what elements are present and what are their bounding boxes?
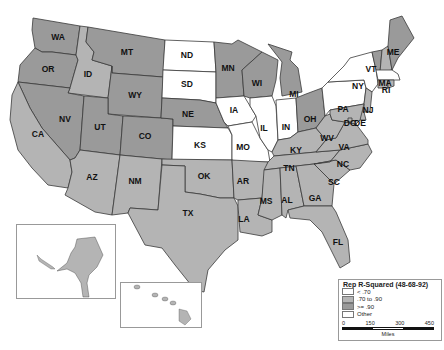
label-LA: LA — [238, 214, 249, 224]
label-SD: SD — [181, 79, 193, 89]
scale-bar-graphic — [342, 327, 434, 330]
label-WY: WY — [128, 90, 142, 100]
map-legend: Rep R-Squared (48-68-92) < .70 .70 to .9… — [338, 279, 442, 341]
legend-label: >= .90 — [357, 304, 374, 310]
legend-swatch — [342, 303, 354, 310]
label-TN: TN — [283, 163, 294, 173]
label-WV: WV — [320, 133, 334, 143]
label-WI: WI — [252, 78, 262, 88]
label-VA: VA — [338, 142, 349, 152]
label-IN: IN — [282, 122, 291, 132]
scale-tick: 450 — [425, 320, 434, 326]
label-ID: ID — [84, 69, 93, 79]
label-WA: WA — [51, 32, 65, 42]
alaska-shape — [17, 225, 115, 298]
label-FL: FL — [333, 237, 343, 247]
legend-item: >= .90 — [339, 303, 441, 311]
label-UT: UT — [94, 122, 106, 132]
state-AZ — [65, 150, 120, 215]
label-NV: NV — [59, 114, 71, 124]
label-NC: NC — [337, 159, 349, 169]
legend-swatch — [342, 311, 354, 318]
legend-swatch — [342, 288, 354, 295]
legend-label: .70 to .90 — [357, 296, 382, 302]
label-DC: DC — [344, 118, 356, 128]
hawaii-inset — [120, 282, 202, 328]
legend-swatch — [342, 296, 354, 303]
legend-item: Other — [339, 311, 441, 319]
label-CO: CO — [139, 131, 152, 141]
label-KS: KS — [194, 140, 206, 150]
label-AZ: AZ — [86, 172, 97, 182]
state-ME — [388, 16, 414, 70]
legend-item: .70 to .90 — [339, 296, 441, 304]
scale-unit: Miles — [342, 331, 434, 337]
label-NJ: NJ — [363, 105, 374, 115]
label-IL: IL — [260, 123, 268, 133]
scale-tick: 0 — [342, 320, 345, 326]
legend-label: < .70 — [357, 289, 371, 295]
label-MO: MO — [236, 142, 250, 152]
label-NY: NY — [352, 81, 364, 91]
label-MI: MI — [289, 89, 298, 99]
label-SC: SC — [328, 177, 340, 187]
label-OK: OK — [198, 171, 212, 181]
state-IN — [276, 98, 298, 140]
label-CA: CA — [32, 129, 44, 139]
label-TX: TX — [183, 208, 194, 218]
label-AR: AR — [237, 176, 249, 186]
label-RI: RI — [382, 85, 391, 95]
label-MN: MN — [221, 63, 234, 73]
label-IA: IA — [230, 105, 239, 115]
label-NM: NM — [128, 176, 141, 186]
label-PA: PA — [337, 104, 348, 114]
hawaii-shape — [121, 283, 201, 327]
label-GA: GA — [309, 193, 322, 203]
label-ME: ME — [387, 47, 400, 57]
label-VT: VT — [366, 64, 378, 74]
label-MS: MS — [260, 196, 273, 206]
scale-bar: 0 150 300 450 Miles — [342, 320, 434, 337]
alaska-inset — [16, 224, 116, 299]
legend-title: Rep R-Squared (48-68-92) — [339, 280, 441, 288]
legend-item: < .70 — [339, 288, 441, 296]
label-OH: OH — [304, 114, 317, 124]
scale-tick: 150 — [366, 320, 375, 326]
label-OR: OR — [42, 64, 55, 74]
label-NE: NE — [182, 109, 194, 119]
legend-label: Other — [357, 311, 372, 317]
label-MT: MT — [121, 47, 134, 57]
scale-tick: 300 — [395, 320, 404, 326]
label-AL: AL — [281, 195, 292, 205]
label-ND: ND — [181, 50, 193, 60]
label-KY: KY — [290, 145, 302, 155]
